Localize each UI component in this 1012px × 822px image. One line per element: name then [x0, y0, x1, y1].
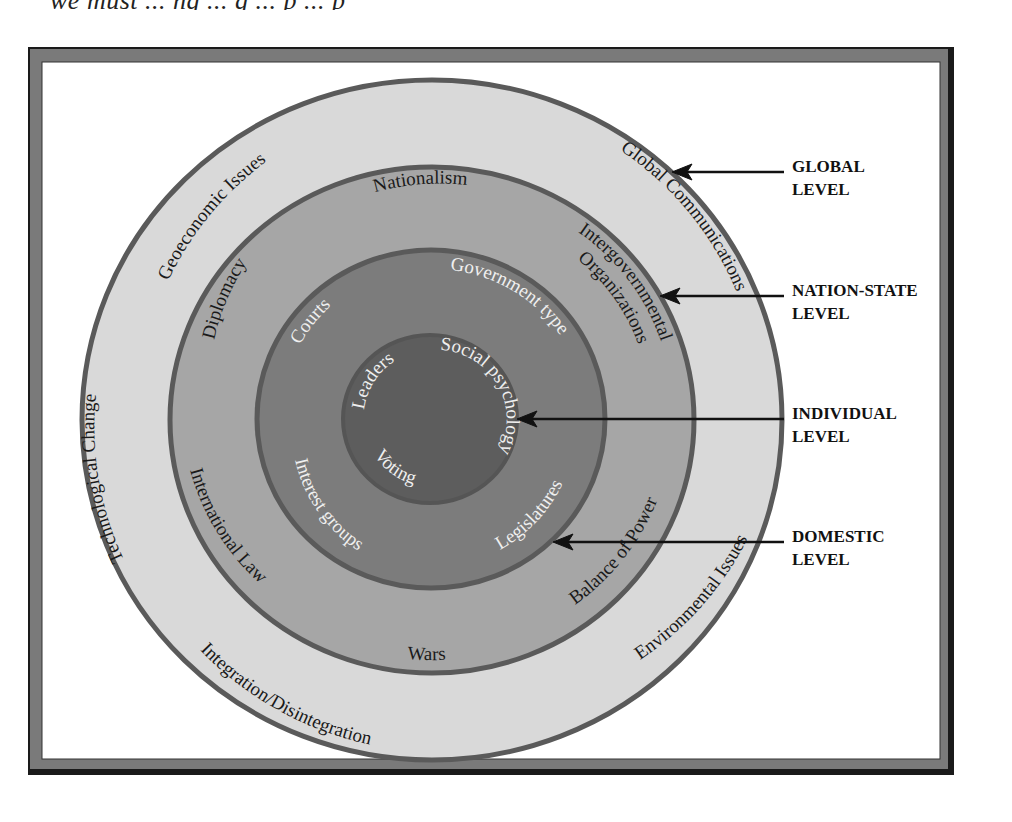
svg-text:LEVEL: LEVEL — [792, 427, 850, 446]
svg-text:GLOBAL: GLOBAL — [792, 157, 865, 176]
svg-text:INDIVIDUAL: INDIVIDUAL — [792, 404, 897, 423]
levels-of-analysis-diagram: Geoeconomic Issues Global Communications… — [0, 0, 1012, 822]
svg-text:DOMESTIC: DOMESTIC — [792, 527, 885, 546]
svg-text:LEVEL: LEVEL — [792, 304, 850, 323]
label-wars: Wars — [407, 642, 446, 664]
svg-text:LEVEL: LEVEL — [792, 550, 850, 569]
svg-text:NATION-STATE: NATION-STATE — [792, 281, 918, 300]
svg-text:LEVEL: LEVEL — [792, 180, 850, 199]
